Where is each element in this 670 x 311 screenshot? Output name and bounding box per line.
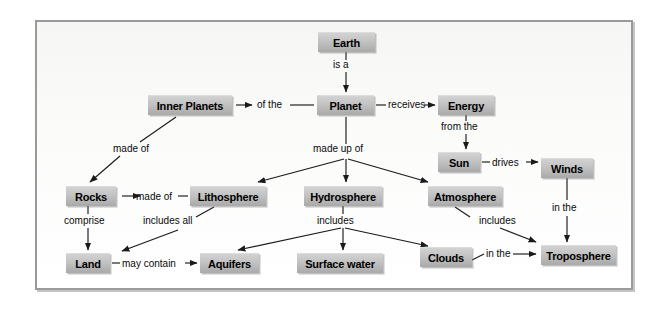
node-hydrosphere[interactable]: Hydrosphere xyxy=(304,186,382,206)
node-inner-planets[interactable]: Inner Planets xyxy=(148,95,232,115)
node-surface-water-label: Surface water xyxy=(305,258,375,270)
link-label-from-the: from the xyxy=(441,121,478,132)
node-rocks-label: Rocks xyxy=(75,191,107,203)
link-label-made-of-inner: made of xyxy=(113,143,149,154)
link-label-may-contain: may contain xyxy=(122,258,176,269)
node-earth[interactable]: Earth xyxy=(318,32,375,52)
link-label-includes-atmo: includes xyxy=(479,215,516,226)
link-label-receives: receives xyxy=(388,99,425,110)
node-sun[interactable]: Sun xyxy=(438,152,480,172)
node-sun-label: Sun xyxy=(449,157,469,169)
concept-map-diagram: Earth Inner Planets Planet Energy Sun Wi… xyxy=(0,0,670,311)
link-label-drives: drives xyxy=(492,157,519,168)
link-label-of-the: of the xyxy=(257,99,282,110)
link-label-is-a: is a xyxy=(333,59,349,70)
node-surface-water[interactable]: Surface water xyxy=(297,253,383,273)
node-inner-planets-label: Inner Planets xyxy=(157,100,223,112)
link-label-in-the-winds: in the xyxy=(552,202,576,213)
node-clouds[interactable]: Clouds xyxy=(420,247,472,267)
node-land-label: Land xyxy=(75,258,100,270)
node-atmosphere[interactable]: Atmosphere xyxy=(428,186,502,206)
node-lithosphere-label: Lithosphere xyxy=(198,191,259,203)
link-label-made-up-of: made up of xyxy=(313,143,363,154)
node-lithosphere[interactable]: Lithosphere xyxy=(190,186,266,206)
node-hydrosphere-label: Hydrosphere xyxy=(310,191,376,203)
node-planet[interactable]: Planet xyxy=(317,95,374,115)
link-label-comprise: comprise xyxy=(64,215,105,226)
node-atmosphere-label: Atmosphere xyxy=(434,191,496,203)
node-rocks[interactable]: Rocks xyxy=(66,186,116,206)
node-aquifers[interactable]: Aquifers xyxy=(200,253,259,273)
node-land[interactable]: Land xyxy=(66,253,110,273)
node-energy[interactable]: Energy xyxy=(438,95,494,115)
node-winds[interactable]: Winds xyxy=(541,158,593,178)
node-troposphere[interactable]: Troposphere xyxy=(541,245,616,265)
node-troposphere-label: Troposphere xyxy=(546,250,610,262)
node-winds-label: Winds xyxy=(551,163,583,175)
node-clouds-label: Clouds xyxy=(428,252,464,264)
node-planet-label: Planet xyxy=(330,100,362,112)
node-aquifers-label: Aquifers xyxy=(208,258,251,270)
link-label-includes-all: includes all xyxy=(143,215,192,226)
link-label-made-of-litho: made of xyxy=(136,191,172,202)
node-energy-label: Energy xyxy=(448,100,484,112)
node-earth-label: Earth xyxy=(333,37,360,49)
link-label-includes-hydro: includes xyxy=(317,215,354,226)
link-label-in-the-clouds: in the xyxy=(486,248,510,259)
